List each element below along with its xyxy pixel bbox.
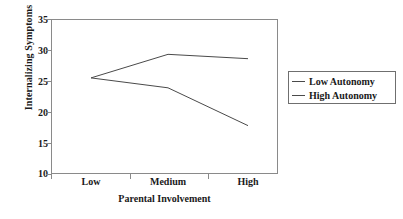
x-tick-label-high: High — [218, 176, 278, 187]
legend-item-high-autonomy: High Autonomy — [292, 88, 395, 102]
legend-label: High Autonomy — [309, 90, 377, 101]
x-tick-label-medium: Medium — [138, 176, 198, 187]
y-tick-label-35: 35 — [26, 15, 48, 25]
y-tick-label-10: 10 — [26, 169, 48, 179]
x-tick-mark-left-edge — [51, 174, 52, 179]
line-swatch-icon — [292, 81, 305, 82]
y-tick-label-30: 30 — [26, 46, 48, 56]
y-tick-label-15: 15 — [26, 139, 48, 149]
y-tick-label-20: 20 — [26, 108, 48, 118]
x-tick-mark-1 — [130, 174, 131, 179]
plot-area — [51, 19, 278, 174]
x-axis-title: Parental Involvement — [51, 193, 278, 204]
x-tick-mark-2 — [208, 174, 209, 179]
legend-label: Low Autonomy — [309, 76, 375, 87]
y-tick-label-25: 25 — [26, 77, 48, 87]
line-swatch-icon — [292, 95, 305, 96]
x-tick-label-low: Low — [61, 176, 121, 187]
interaction-line-chart: Internalizing Symptoms 35 30 25 20 15 10… — [0, 0, 403, 219]
legend-item-low-autonomy: Low Autonomy — [292, 74, 395, 88]
legend: Low Autonomy High Autonomy — [288, 71, 396, 104]
